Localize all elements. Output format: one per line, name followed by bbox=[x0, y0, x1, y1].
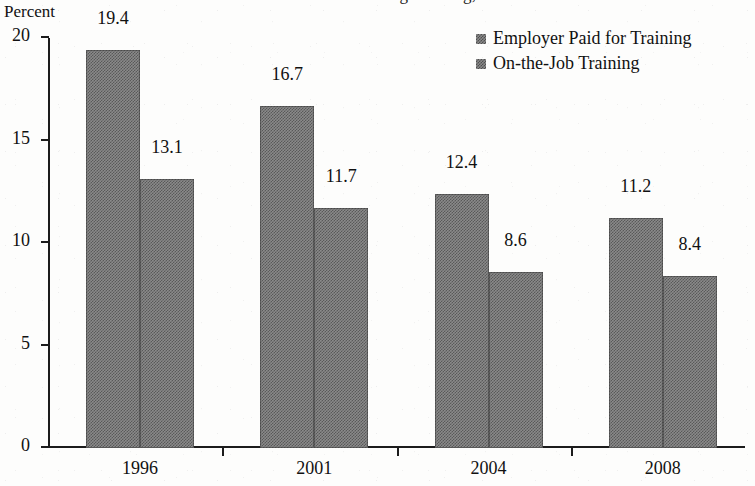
chart-title-text: Percent of Workers Receiving Training, 1… bbox=[0, 0, 755, 5]
bar bbox=[260, 106, 314, 448]
bar-chart-figure: Percent of Workers Receiving Training, 1… bbox=[0, 0, 755, 486]
bar bbox=[314, 208, 368, 448]
y-tick: 15 bbox=[41, 139, 49, 141]
x-axis-category-label: 2001 bbox=[296, 458, 332, 479]
bar-value-label: 8.4 bbox=[679, 234, 702, 255]
x-axis-category-label: 2008 bbox=[645, 458, 681, 479]
bar-value-label: 11.7 bbox=[326, 166, 357, 187]
y-tick: 20 bbox=[41, 36, 49, 38]
y-tick-label: 15 bbox=[12, 128, 30, 149]
bar-value-label: 19.4 bbox=[97, 8, 129, 29]
y-tick: 0 bbox=[41, 446, 49, 448]
y-axis-line bbox=[48, 38, 50, 448]
x-axis-category-label: 1996 bbox=[122, 458, 158, 479]
bar bbox=[663, 276, 717, 448]
legend-item: Employer Paid for Training bbox=[476, 28, 692, 49]
x-tick bbox=[397, 447, 399, 456]
y-tick: 10 bbox=[41, 241, 49, 243]
x-axis-category-label: 2004 bbox=[471, 458, 507, 479]
y-tick-label: 10 bbox=[12, 230, 30, 251]
x-tick bbox=[571, 447, 573, 456]
bar bbox=[435, 194, 489, 448]
bar-value-label: 12.4 bbox=[446, 152, 478, 173]
legend-item: On-the-Job Training bbox=[476, 53, 692, 74]
plot-area: 05101520 19.413.116.711.712.48.611.28.4 … bbox=[48, 38, 745, 448]
bar-value-label: 8.6 bbox=[504, 230, 527, 251]
bar bbox=[489, 272, 543, 448]
legend-swatch-icon bbox=[476, 34, 486, 44]
bar-value-label: 16.7 bbox=[272, 64, 304, 85]
x-tick bbox=[222, 447, 224, 456]
bar bbox=[609, 218, 663, 448]
bar bbox=[86, 50, 140, 448]
cropped-chart-title: Percent of Workers Receiving Training, 1… bbox=[0, 0, 755, 8]
bar bbox=[140, 179, 194, 448]
y-tick-label: 0 bbox=[21, 435, 30, 456]
bar-value-label: 11.2 bbox=[620, 176, 651, 197]
chart-legend: Employer Paid for TrainingOn-the-Job Tra… bbox=[476, 28, 692, 74]
y-tick: 5 bbox=[41, 344, 49, 346]
y-tick-label: 20 bbox=[12, 25, 30, 46]
legend-label: On-the-Job Training bbox=[493, 53, 640, 74]
y-axis-title: Percent bbox=[4, 2, 55, 22]
legend-label: Employer Paid for Training bbox=[493, 28, 692, 49]
y-tick-label: 5 bbox=[21, 333, 30, 354]
bar-value-label: 13.1 bbox=[151, 137, 183, 158]
legend-swatch-icon bbox=[476, 59, 486, 69]
